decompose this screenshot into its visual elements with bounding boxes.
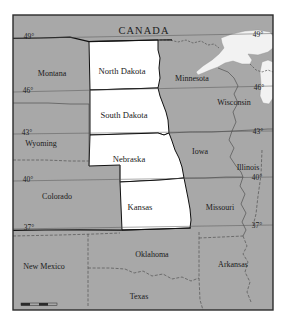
- state-label-missouri: Missouri: [206, 203, 235, 212]
- lat-label-43-right: 43°: [253, 127, 263, 136]
- state-label-illinois: Illinois: [237, 163, 260, 172]
- state-label-minnesota: Minnesota: [175, 74, 209, 83]
- state-label-oklahoma: Oklahoma: [135, 250, 169, 259]
- state-label-arkansas: Arkansas: [218, 260, 248, 269]
- state-label-texas: Texas: [130, 292, 149, 301]
- map-canvas: CANADA North Dakota South Dakota Nebrask…: [0, 0, 287, 323]
- state-label-wisconsin: Wisconsin: [217, 98, 250, 107]
- country-label-canada: CANADA: [118, 25, 169, 36]
- lat-label-49-left: 49°: [24, 32, 34, 41]
- state-label-wyoming: Wyoming: [25, 139, 57, 148]
- reference-map-figure: CANADA North Dakota South Dakota Nebrask…: [0, 0, 287, 323]
- state-label-montana: Montana: [38, 69, 67, 78]
- lat-label-46-left: 46°: [23, 86, 33, 95]
- state-label-north-dakota: North Dakota: [98, 66, 145, 76]
- map-body: CANADA North Dakota South Dakota Nebrask…: [13, 15, 273, 310]
- lat-label-37-right: 37°: [252, 221, 262, 230]
- state-label-new-mexico: New Mexico: [23, 262, 65, 271]
- state-label-kansas: Kansas: [128, 202, 153, 212]
- lat-label-37-left: 37°: [24, 223, 34, 232]
- state-label-south-dakota: South Dakota: [100, 110, 147, 120]
- lat-label-43-left: 43°: [22, 128, 32, 137]
- lat-label-46-right: 46°: [254, 83, 264, 92]
- state-label-iowa: Iowa: [192, 147, 208, 156]
- state-label-colorado: Colorado: [42, 192, 72, 201]
- state-label-nebraska: Nebraska: [113, 154, 146, 164]
- lat-label-49-right: 49°: [253, 30, 263, 39]
- lat-label-40-right: 40°: [252, 173, 262, 182]
- lat-label-40-left: 40°: [23, 175, 33, 184]
